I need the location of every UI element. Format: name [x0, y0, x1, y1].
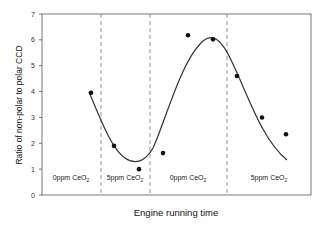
data-point	[284, 132, 289, 137]
data-point	[260, 115, 265, 120]
plot-frame	[42, 14, 311, 195]
phase-dividers	[101, 14, 227, 195]
y-tick-label: 4	[31, 88, 35, 95]
y-tick-label: 5	[31, 62, 35, 69]
y-tick-label: 0	[31, 192, 35, 199]
data-point	[235, 74, 240, 79]
segment-labels: 0ppm CeO25ppm CeO20ppm CeO25ppm CeO2	[53, 174, 288, 183]
data-point	[211, 37, 216, 42]
x-axis-label: Engine running time	[134, 207, 219, 218]
y-axis-ticks: 01234567	[31, 11, 42, 199]
data-point	[89, 91, 94, 96]
chart: 01234567 0ppm CeO25ppm CeO20ppm CeO25ppm…	[0, 0, 327, 226]
data-point	[137, 167, 142, 172]
segment-label: 0ppm CeO2	[170, 174, 207, 183]
y-tick-label: 7	[31, 11, 35, 18]
data-points	[89, 33, 289, 172]
segment-label: 0ppm CeO2	[53, 174, 90, 183]
data-point	[112, 144, 117, 149]
fit-curve	[89, 38, 287, 162]
y-tick-label: 1	[31, 166, 35, 173]
y-tick-label: 2	[31, 140, 35, 147]
y-tick-label: 3	[31, 114, 35, 121]
segment-label: 5ppm CeO2	[107, 174, 144, 183]
y-axis-label: Ratio of non-polar to polar CCD	[14, 45, 24, 164]
y-tick-label: 6	[31, 36, 35, 43]
data-point	[186, 33, 191, 38]
segment-label: 5ppm CeO2	[251, 174, 288, 183]
data-point	[161, 151, 166, 156]
